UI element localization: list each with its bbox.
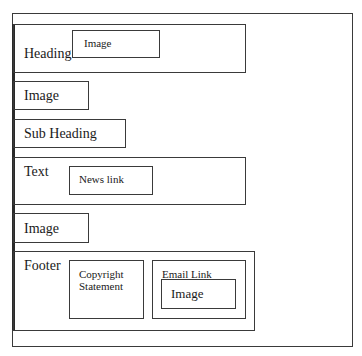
heading-image-label: Image (84, 37, 111, 49)
news-link-label: News link (79, 173, 124, 185)
sub-heading-label: Sub Heading (24, 126, 97, 141)
copyright-line-1: Copyright (79, 268, 124, 280)
footer-label: Footer (24, 258, 61, 273)
copyright-line-2: Statement (79, 280, 123, 292)
email-image-label: Image (171, 287, 203, 301)
image-2-label: Image (24, 221, 59, 236)
text-label: Text (24, 164, 49, 179)
image-1-label: Image (24, 88, 59, 103)
heading-label: Heading (24, 46, 71, 61)
